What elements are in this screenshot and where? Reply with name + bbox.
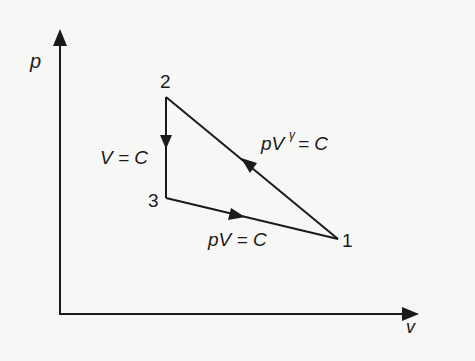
process-3-1-arrow-icon [228, 208, 245, 220]
process-1-2-label-base: pV [260, 133, 287, 154]
point-2-label: 2 [160, 71, 171, 92]
process-2-3-arrow-icon [160, 135, 172, 149]
y-axis-label: p [29, 50, 41, 72]
process-1-2-label-sup: γ [289, 128, 296, 142]
process-2-3-label: V = C [100, 147, 148, 168]
y-axis-arrow-icon [53, 29, 67, 46]
axes [53, 29, 419, 321]
pv-diagram: p v 2 3 1 V = C pV = C pV γ = C [0, 0, 475, 361]
process-1-2-label: pV γ = C [260, 128, 328, 154]
point-1-label: 1 [342, 230, 353, 251]
point-3-label: 3 [148, 190, 159, 211]
process-1-2-label-rest: = C [298, 133, 328, 154]
x-axis-label: v [406, 317, 416, 337]
process-3-1-label: pV = C [207, 229, 267, 250]
cycle [160, 97, 338, 239]
